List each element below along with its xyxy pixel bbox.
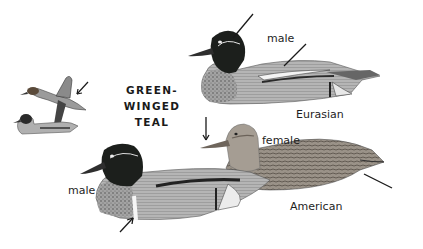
label-american-male: male	[68, 184, 95, 197]
arrow-eurasian-head	[233, 14, 253, 38]
title-line-2: TEAL	[104, 114, 200, 130]
label-female: female	[262, 134, 300, 147]
teal-illustration	[0, 0, 423, 249]
arrow-female-tail	[364, 174, 392, 188]
illustration-title: GREEN-WINGED TEAL	[104, 82, 200, 130]
title-line-1: GREEN-WINGED	[104, 82, 200, 114]
label-american: American	[290, 200, 342, 213]
small-swimming-teal	[13, 114, 78, 134]
small-ducks-group	[13, 76, 88, 134]
arrow-flying	[77, 82, 88, 94]
label-eurasian-male: male	[267, 32, 294, 45]
arrow-american-breast	[120, 218, 133, 232]
label-eurasian: Eurasian	[296, 108, 344, 121]
eurasian-male-teal	[188, 14, 380, 104]
